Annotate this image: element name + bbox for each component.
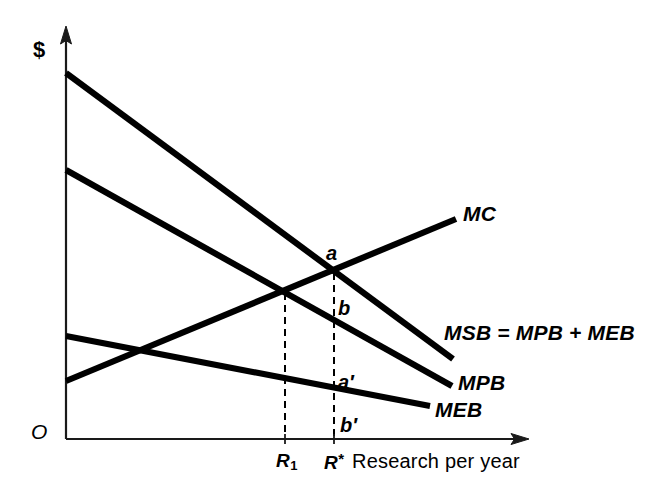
x-tick-label-r1-subscript: 1 xyxy=(290,458,298,473)
y-axis-unit-label: $ xyxy=(33,39,45,61)
curve-label-msb: MSB = MPB + MEB xyxy=(444,322,635,343)
economics-diagram-figure: $ O MC MSB = MPB + MEB MPB MEB a b a′ b′… xyxy=(0,0,657,498)
x-tick-label-rstar-base: R xyxy=(324,452,338,473)
point-label-b: b xyxy=(338,298,350,318)
x-tick-label-rstar: R* xyxy=(324,451,344,472)
x-tick-label-rstar-superscript: * xyxy=(338,450,344,467)
point-label-a: a xyxy=(326,243,337,263)
origin-label: O xyxy=(31,421,47,442)
x-axis xyxy=(66,434,529,445)
x-tick-label-r1: R1 xyxy=(276,451,297,472)
x-tick-label-r1-base: R xyxy=(276,450,290,471)
point-label-b-prime: b′ xyxy=(340,415,357,435)
curve-label-mpb: MPB xyxy=(458,372,505,393)
curve-label-mc: MC xyxy=(463,203,496,224)
curve-label-meb: MEB xyxy=(435,399,482,420)
point-label-a-prime: a′ xyxy=(338,372,354,392)
x-axis-title: Research per year xyxy=(352,451,520,471)
curve-msb xyxy=(66,73,453,359)
